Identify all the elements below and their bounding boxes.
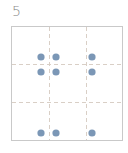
grid-dividers bbox=[12, 27, 122, 140]
dot bbox=[52, 129, 59, 136]
grid-border bbox=[12, 27, 123, 141]
dot bbox=[37, 129, 44, 136]
dot-grid-diagram bbox=[0, 0, 128, 153]
dot bbox=[52, 68, 59, 75]
dot bbox=[88, 53, 95, 60]
dot bbox=[52, 53, 59, 60]
dot bbox=[88, 129, 95, 136]
dot bbox=[88, 68, 95, 75]
dot bbox=[37, 53, 44, 60]
dot bbox=[37, 68, 44, 75]
